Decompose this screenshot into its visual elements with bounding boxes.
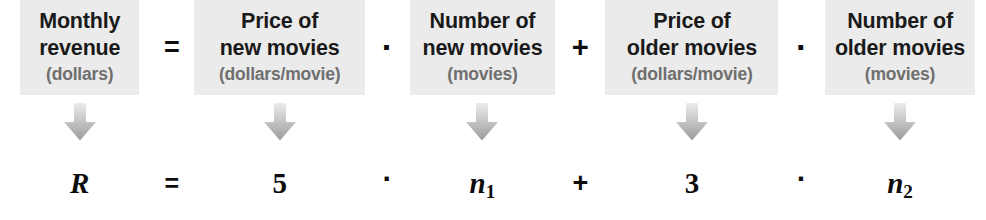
word-equation-diagram: Monthly revenue (dollars) — [0, 0, 986, 220]
term-price-new-movies: Price of new movies (dollars/movie) — [186, 0, 373, 141]
operator-glyph: = — [164, 0, 180, 95]
down-arrow-icon — [675, 103, 709, 141]
operator-equals: = — [157, 0, 186, 95]
operator-glyph: · — [797, 156, 807, 202]
symbol-number-new-movies: n1 — [402, 160, 563, 220]
symbol-glyph: 5 — [272, 160, 287, 206]
symbol-glyph: R — [70, 160, 89, 206]
term-line2: new movies — [423, 35, 543, 62]
operator-glyph: = — [164, 160, 179, 206]
operator-plus: + — [563, 0, 597, 95]
term-line2: older movies — [835, 35, 965, 62]
term-line1: Number of — [847, 8, 953, 35]
symbol-glyph: n1 — [470, 160, 496, 210]
term-units: (movies) — [865, 62, 935, 86]
term-line2: revenue — [39, 35, 120, 62]
symbol-base: n — [887, 167, 903, 199]
symbol-monthly-revenue: R — [0, 160, 157, 220]
operator-times-2: · — [786, 0, 817, 95]
symbol-subscript: 2 — [903, 181, 913, 202]
symbol-glyph: n2 — [887, 160, 913, 210]
operator-glyph: + — [572, 160, 588, 206]
symbol-price-new-movies: 5 — [186, 160, 373, 220]
term-box-number-older-movies: Number of older movies (movies) — [825, 0, 975, 95]
term-price-older-movies: Price of older movies (dollars/movie) — [597, 0, 786, 141]
term-line1: Monthly — [39, 8, 120, 35]
word-boxes-row: Monthly revenue (dollars) — [0, 0, 986, 160]
operator-glyph: · — [382, 156, 392, 202]
term-box-monthly-revenue: Monthly revenue (dollars) — [20, 0, 139, 95]
term-units: (dollars) — [46, 62, 113, 86]
term-monthly-revenue: Monthly revenue (dollars) — [0, 0, 157, 141]
term-units: (dollars/movie) — [631, 62, 752, 86]
term-line1: Price of — [653, 8, 730, 35]
operator-glyph: · — [382, 0, 393, 95]
term-line1: Number of — [430, 8, 536, 35]
down-arrow-icon — [263, 103, 297, 141]
symbol-subscript: 1 — [486, 181, 496, 202]
term-units: (movies) — [447, 62, 517, 86]
term-number-older-movies: Number of older movies (movies) — [817, 0, 986, 141]
term-number-new-movies: Number of new movies (movies) — [402, 0, 563, 141]
symbol-base: n — [470, 167, 486, 199]
operator-glyph: · — [796, 0, 807, 95]
symbol-price-older-movies: 3 — [597, 160, 786, 220]
down-arrow-icon — [465, 103, 499, 141]
symbolic-equation-row: R = 5 · n1 + 3 · n2 — [0, 160, 986, 220]
operator-times-1: · — [373, 0, 402, 95]
symbol-operator-plus: + — [563, 160, 597, 220]
term-units: (dollars/movie) — [219, 62, 340, 86]
term-line1: Price of — [241, 8, 318, 35]
term-line2: new movies — [220, 35, 340, 62]
symbol-operator-equals: = — [157, 160, 186, 220]
symbol-number-older-movies: n2 — [817, 160, 986, 220]
symbol-operator-times-1: · — [373, 160, 402, 220]
operator-glyph: + — [572, 0, 589, 95]
term-line2: older movies — [627, 35, 757, 62]
term-box-number-new-movies: Number of new movies (movies) — [410, 0, 555, 95]
symbol-glyph: 3 — [685, 160, 700, 206]
term-box-price-new-movies: Price of new movies (dollars/movie) — [194, 0, 365, 95]
symbol-operator-times-2: · — [786, 160, 817, 220]
down-arrow-icon — [63, 103, 97, 141]
down-arrow-icon — [883, 103, 917, 141]
term-box-price-older-movies: Price of older movies (dollars/movie) — [605, 0, 778, 95]
